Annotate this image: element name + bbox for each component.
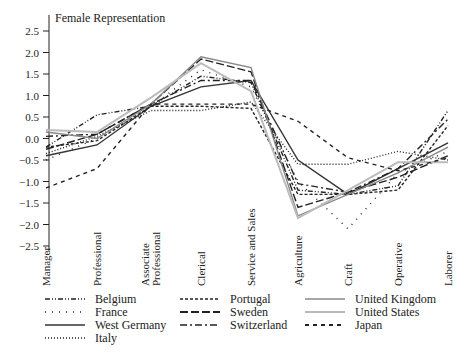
y-tick-label: −2.5 [19,240,39,252]
y-tick-label: −0.5 [19,154,39,166]
x-category-label: Clerical [195,251,207,286]
solid-gray-line-icon [305,294,345,304]
y-tick-label: 1.5 [25,68,39,80]
line-chart: Female Representation 2.52.01.51.00.50.0… [0,0,466,290]
y-tick-label: 2.0 [25,47,39,59]
solid-light-line-icon [305,307,345,317]
chart-title: Female Representation [55,11,165,25]
dashdotdot-line-icon [45,294,85,304]
legend-label: Japan [355,318,382,333]
legend: Belgium France West Germany Italy Portug… [0,288,466,353]
series-line-france [46,70,448,229]
x-category-label: Agriculture [292,235,304,286]
legend-label: Switzerland [230,318,287,333]
x-category-label: Professional [91,232,103,286]
y-tick-label: −2.0 [19,219,39,231]
series-lines [46,57,448,229]
x-category-label: Manager [40,247,52,286]
series-line-japan [46,104,448,188]
dashdot-line-icon [180,320,220,330]
y-tick-label: 2.5 [25,25,39,37]
legend-item-japan: Japan [305,318,382,332]
sparse-dot-line-icon [45,307,85,317]
y-tick-label: −1.0 [19,176,39,188]
dashed-line-icon [180,294,220,304]
x-category-label: Laborer [442,251,454,286]
y-tick-label: −1.5 [19,197,39,209]
y-axis-ticks: 2.52.01.51.00.50.0−0.5−1.0−1.5−2.0−2.5 [19,25,49,252]
wide-dash-line-icon [305,320,345,330]
x-axis-labels: ManagerProfessionalAssociateProfessional… [40,208,454,286]
solid-line-icon [45,320,85,330]
long-dash-line-icon [180,307,220,317]
series-line-portugal [46,106,448,194]
x-category-label: Craft [342,263,354,286]
x-category-label: Professional [150,232,162,286]
series-line-switzerland [46,80,448,192]
y-tick-label: 0.0 [25,133,39,145]
x-category-label: Service and Sales [245,208,257,286]
legend-item-italy: Italy [45,331,117,345]
x-category-label: Operative [392,243,404,286]
legend-label: Italy [95,331,117,346]
dotted-line-icon [45,333,85,343]
y-tick-label: 0.5 [25,111,39,123]
y-tick-label: 1.0 [25,90,39,102]
series-line-united-states [46,63,448,218]
legend-item-switzerland: Switzerland [180,318,287,332]
